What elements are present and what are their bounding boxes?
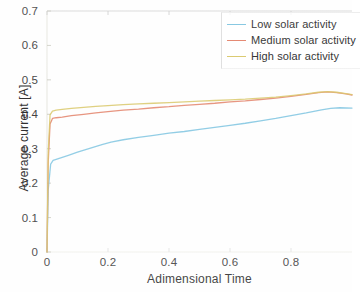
legend-item[interactable]: High solar activity <box>222 48 360 64</box>
x-tick-label: 0.4 <box>149 256 189 268</box>
x-tick-label: 0.6 <box>210 256 250 268</box>
x-axis-title: Adimensional Time <box>47 272 352 286</box>
y-tick-label: 0.6 <box>8 39 38 51</box>
legend-color-swatch <box>227 24 246 25</box>
y-tick-label: 0 <box>8 246 38 258</box>
legend-label: Medium solar activity <box>251 34 356 46</box>
series-line <box>47 92 352 252</box>
legend-color-swatch <box>227 56 246 57</box>
x-tick-label: 0 <box>27 256 67 268</box>
legend: Low solar activityMedium solar activityH… <box>221 12 360 69</box>
legend-color-swatch <box>227 40 246 41</box>
x-tick-label: 0.2 <box>88 256 128 268</box>
data-series-group <box>47 92 352 252</box>
legend-item[interactable]: Medium solar activity <box>222 32 360 48</box>
series-line <box>47 108 352 252</box>
legend-label: Low solar activity <box>251 18 337 30</box>
y-tick-label: 0.7 <box>8 5 38 17</box>
legend-item[interactable]: Low solar activity <box>222 16 360 32</box>
legend-label: High solar activity <box>251 50 339 62</box>
series-line <box>47 92 352 252</box>
y-axis-title: Average current [A] <box>17 58 31 218</box>
x-tick-label: 0.8 <box>271 256 311 268</box>
